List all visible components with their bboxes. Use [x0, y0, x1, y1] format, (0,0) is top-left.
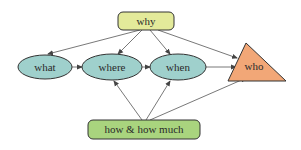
node-where: where — [82, 54, 142, 80]
node-who-label: who — [245, 60, 264, 72]
node-what: what — [18, 55, 72, 79]
node-how: how & how much — [88, 120, 200, 139]
diagram-canvas: why what where when who how & how much — [0, 0, 301, 150]
node-what-label: what — [34, 61, 55, 73]
node-why-label: why — [137, 15, 156, 27]
node-when-label: when — [166, 61, 190, 73]
edge-how-where — [114, 81, 142, 120]
node-when: when — [150, 54, 206, 80]
node-where-label: where — [99, 61, 126, 73]
node-who: who — [228, 43, 286, 81]
edges — [48, 30, 246, 120]
edge-why-what — [48, 30, 140, 54]
edge-how-when — [146, 81, 170, 120]
edge-how-who — [150, 78, 246, 120]
node-how-label: how & how much — [104, 123, 184, 135]
edge-why-where — [118, 30, 142, 54]
node-why: why — [118, 12, 174, 30]
